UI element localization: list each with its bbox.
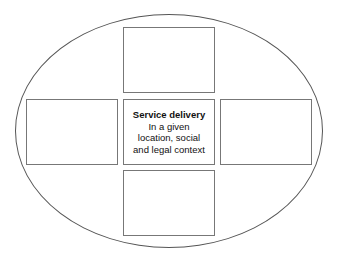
center-line: and legal context <box>133 144 205 156</box>
top-box <box>123 27 215 93</box>
center-box: Service delivery In a given location, so… <box>123 99 215 165</box>
center-line: location, social <box>138 132 200 144</box>
right-box <box>220 99 312 165</box>
bottom-box <box>123 170 215 236</box>
center-line: In a given <box>148 121 189 133</box>
left-box <box>26 99 118 165</box>
center-title: Service delivery <box>133 109 205 121</box>
